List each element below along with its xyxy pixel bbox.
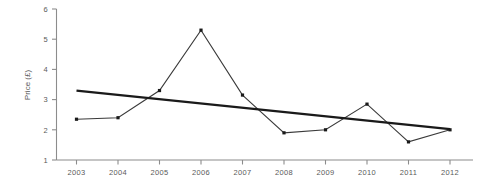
chart-background	[0, 0, 494, 189]
data-point-marker	[158, 89, 161, 92]
y-tick-label: 3	[44, 95, 48, 104]
y-tick-label: 1	[44, 156, 48, 165]
x-tick-label: 2003	[68, 168, 86, 177]
y-tick-label: 4	[44, 65, 48, 74]
x-tick-label: 2010	[358, 168, 376, 177]
y-tick-label: 2	[44, 126, 48, 135]
data-point-marker	[116, 116, 119, 119]
x-tick-label: 2006	[192, 168, 210, 177]
x-tick-label: 2008	[275, 168, 293, 177]
x-tick-label: 2007	[234, 168, 252, 177]
y-tick-label: 5	[44, 35, 48, 44]
data-point-marker	[241, 93, 244, 96]
x-tick-label: 2009	[317, 168, 335, 177]
y-tick-label: 6	[44, 5, 48, 14]
x-tick-label: 2005	[151, 168, 169, 177]
x-tick-label: 2012	[441, 168, 459, 177]
data-point-marker	[75, 118, 78, 121]
chart-canvas: 6 5 4 3 2 1 Price (£) 2003 2004 2005	[0, 0, 494, 189]
data-point-marker	[282, 131, 285, 134]
y-axis-title: Price (£)	[23, 70, 32, 101]
x-tick-label: 2004	[109, 168, 127, 177]
x-tick-label: 2011	[400, 168, 417, 177]
data-point-marker	[448, 128, 451, 131]
data-point-marker	[407, 140, 410, 143]
line-chart: 6 5 4 3 2 1 Price (£) 2003 2004 2005	[0, 0, 494, 189]
data-point-marker	[324, 128, 327, 131]
data-point-marker	[365, 103, 368, 106]
data-point-marker	[199, 29, 202, 32]
